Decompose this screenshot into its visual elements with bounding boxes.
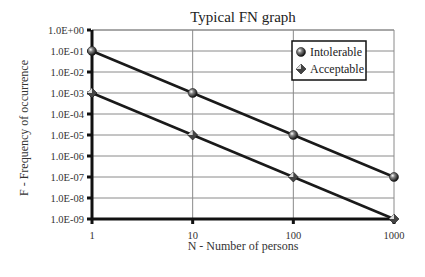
x-axis-label: N - Number of persons — [188, 239, 299, 253]
y-tick-label: 1.0E-05 — [50, 130, 84, 141]
y-tick-labels: 1.0E+001.0E-011.0E-021.0E-031.0E-041.0E-… — [48, 25, 85, 225]
sphere-marker — [297, 48, 306, 57]
sphere-marker — [188, 89, 197, 98]
sphere-marker — [390, 173, 399, 182]
diamond-highlight — [87, 88, 92, 93]
y-tick-label: 1.0E-01 — [50, 46, 84, 57]
x-tick-mark — [91, 220, 94, 224]
y-tick-mark — [87, 197, 91, 200]
y-tick-label: 1.0E-04 — [50, 109, 84, 120]
legend-label-acceptable: Acceptable — [310, 62, 364, 76]
x-tick-mark — [292, 220, 295, 224]
x-tick-label: 1 — [89, 230, 94, 241]
y-tick-label: 1.0E+00 — [48, 25, 84, 36]
y-tick-label: 1.0E-06 — [50, 151, 84, 162]
y-tick-label: 1.0E-02 — [50, 67, 84, 78]
fn-chart: Typical FN graph 1.0E+001.0E-011.0E-021.… — [0, 0, 425, 277]
x-tick-label: 1000 — [384, 230, 405, 241]
sphere-marker — [289, 131, 298, 140]
x-tick-mark — [191, 220, 194, 224]
y-tick-mark — [87, 29, 91, 32]
y-tick-mark — [87, 113, 91, 116]
y-tick-mark — [87, 218, 91, 221]
y-tick-label: 1.0E-07 — [50, 172, 84, 183]
chart-title: Typical FN graph — [190, 9, 296, 25]
legend: IntolerableAcceptable — [292, 41, 366, 80]
y-tick-label: 1.0E-08 — [50, 193, 84, 204]
y-tick-mark — [87, 176, 91, 179]
legend-label-intolerable: Intolerable — [310, 45, 362, 59]
y-tick-label: 1.0E-03 — [50, 88, 84, 99]
y-tick-mark — [87, 71, 91, 74]
sphere-marker — [88, 47, 97, 56]
y-tick-mark — [87, 134, 91, 137]
y-axis-label: F - Frequency of occurrence — [17, 60, 31, 196]
y-tick-label: 1.0E-09 — [50, 214, 84, 225]
y-tick-mark — [87, 155, 91, 158]
